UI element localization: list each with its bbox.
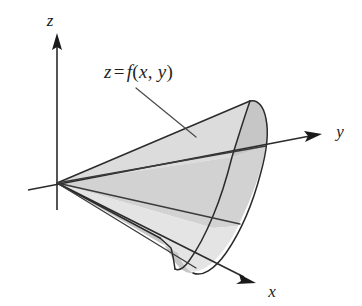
x-axis-label: x [267, 282, 276, 301]
y-axis-label: y [334, 122, 344, 141]
equation-close-paren: ) [167, 61, 174, 82]
equation-open-paren: ( [132, 61, 139, 82]
equation-var-y: y [158, 61, 167, 82]
x-axis-arrowhead [236, 274, 256, 284]
equation-equals: = [112, 61, 127, 82]
surface-diagram-svg: z y x [0, 0, 362, 306]
label-leader-line [136, 88, 196, 137]
equation-z: z [104, 61, 112, 82]
surface-equation-label: z=f(x, y) [104, 61, 173, 83]
figure-canvas: z y x z=f(x, y) [0, 0, 362, 306]
equation-var-x: x [139, 61, 148, 82]
equation-comma: , [148, 61, 153, 82]
z-axis-label: z [46, 11, 54, 30]
